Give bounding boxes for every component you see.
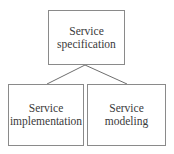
edge-spec-to-implementation — [47, 65, 85, 84]
node-label-line2: modeling — [105, 115, 148, 128]
node-label-line1: Service — [29, 102, 63, 115]
node-label-line2: specification — [57, 38, 116, 51]
node-label-line2: implementation — [10, 115, 82, 128]
node-label-line1: Service — [109, 102, 143, 115]
node-service-specification: Service specification — [48, 10, 125, 65]
node-service-modeling: Service modeling — [87, 84, 166, 146]
node-label-line1: Service — [69, 25, 103, 38]
edge-spec-to-modeling — [85, 65, 127, 84]
node-service-implementation: Service implementation — [8, 84, 84, 146]
